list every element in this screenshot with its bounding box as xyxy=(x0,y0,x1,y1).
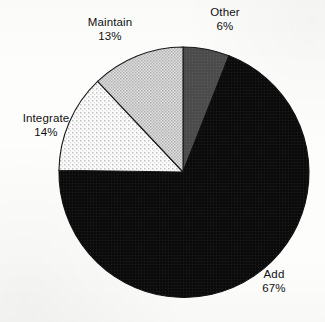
pie-label-integrate-value: 14% xyxy=(4,126,88,140)
pie-label-other-name: Other xyxy=(184,6,266,20)
pie-label-add-name: Add xyxy=(238,268,310,282)
pie-label-other-value: 6% xyxy=(184,20,266,34)
pie-label-maintain-value: 13% xyxy=(62,30,158,44)
pie-label-add: Add 67% xyxy=(238,268,310,295)
pie-label-add-value: 67% xyxy=(238,282,310,296)
pie-label-other: Other 6% xyxy=(184,6,266,33)
pie-label-integrate: Integrate 14% xyxy=(4,112,88,139)
pie-label-maintain: Maintain 13% xyxy=(62,16,158,43)
pie-chart: Maintain 13% Other 6% Integrate 14% Add … xyxy=(0,0,325,322)
pie-label-integrate-name: Integrate xyxy=(4,112,88,126)
pie-label-maintain-name: Maintain xyxy=(62,16,158,30)
